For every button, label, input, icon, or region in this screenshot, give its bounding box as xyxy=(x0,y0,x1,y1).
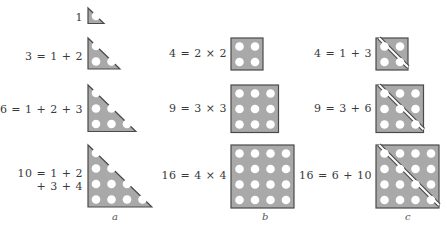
square-number-16 xyxy=(231,145,294,208)
split-square-number-16 xyxy=(376,145,439,208)
triangular-3-label: 3 = 1 + 2 xyxy=(25,51,83,63)
triangular-number-1 xyxy=(88,8,104,24)
split-square-16-label: 16 = 6 + 10 xyxy=(299,170,372,182)
square-number-9 xyxy=(231,85,279,133)
column-c-label: c xyxy=(405,211,411,222)
column-b-label: b xyxy=(262,211,268,222)
square-number-4 xyxy=(231,38,263,70)
triangular-10-label-line2: + 3 + 4 xyxy=(37,181,83,193)
split-square-9-label: 9 = 3 + 6 xyxy=(314,103,372,115)
split-square-number-9 xyxy=(376,85,424,133)
square-9-label: 9 = 3 × 3 xyxy=(169,103,227,115)
triangular-10-label-line1: 10 = 1 + 2 xyxy=(18,168,83,180)
triangular-6-label: 6 = 1 + 2 + 3 xyxy=(0,104,83,116)
triangular-number-3 xyxy=(88,38,120,69)
triangular-number-6 xyxy=(88,85,136,132)
triangular-number-10 xyxy=(88,145,152,207)
figurate-numbers-diagram xyxy=(0,0,447,233)
square-16-label: 16 = 4 × 4 xyxy=(162,170,227,182)
split-square-number-4 xyxy=(376,38,408,70)
column-a-label: a xyxy=(112,211,118,222)
triangular-1-label: 1 xyxy=(76,12,84,24)
split-square-4-label: 4 = 1 + 3 xyxy=(314,48,372,60)
square-4-label: 4 = 2 × 2 xyxy=(169,48,227,60)
